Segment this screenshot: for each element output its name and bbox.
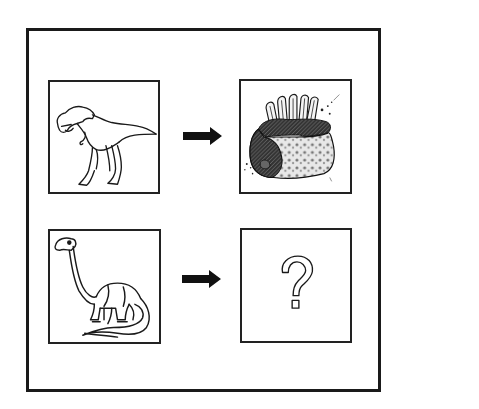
t-rex-icon: [50, 82, 158, 192]
meat-icon: [241, 81, 350, 192]
meat-panel: [239, 79, 352, 194]
brontosaurus-panel: [48, 229, 161, 344]
arrow-right-icon: [183, 126, 223, 146]
arrow-right-icon: [182, 269, 222, 289]
brontosaurus-icon: [50, 231, 159, 342]
answer-panel: [240, 228, 352, 343]
t-rex-panel: [48, 80, 160, 194]
question-mark-icon: [242, 230, 350, 341]
